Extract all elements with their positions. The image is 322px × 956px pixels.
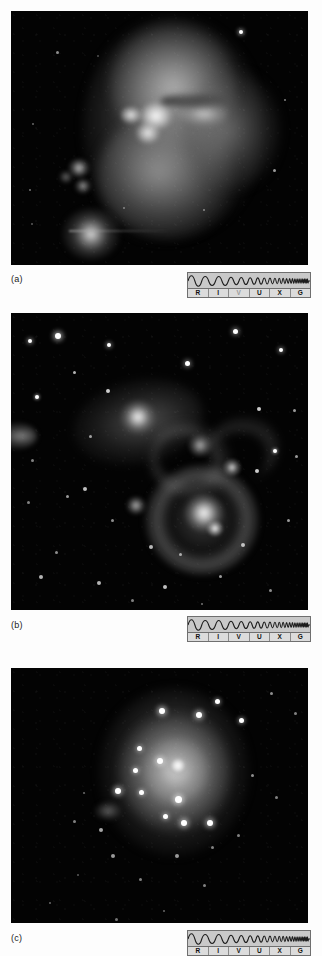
panel-c-spectrum-band: R I V U X G: [187, 930, 311, 956]
spectrum-label-r: R: [188, 289, 209, 297]
panel-b-caption: (b): [11, 620, 23, 630]
spectrum-waveform-icon: [188, 617, 310, 633]
spectrum-label-x: X: [270, 289, 291, 297]
spectrum-label-u: U: [250, 947, 271, 955]
panel-c-spectrum-labels: R I V U X G: [188, 946, 310, 955]
spectrum-label-r: R: [188, 633, 209, 641]
panel-b: (b) R I V U X G: [0, 300, 322, 645]
spectrum-label-v: V: [229, 289, 250, 297]
panel-a-image: [11, 11, 308, 265]
sky-background: [11, 668, 308, 923]
astronomy-figure-page: (a) R I V U X G: [0, 0, 322, 956]
spectrum-label-x: X: [270, 947, 291, 955]
spectrum-label-v: V: [229, 633, 250, 641]
spectrum-label-g: G: [291, 633, 311, 641]
spectrum-label-i: I: [209, 289, 230, 297]
panel-b-image: [11, 313, 308, 610]
spectrum-waveform-icon: [188, 273, 310, 289]
panel-c: (c) R I V U X G: [0, 645, 322, 956]
spectrum-label-r: R: [188, 947, 209, 955]
spectrum-waveform-icon: [188, 931, 310, 947]
spectrum-label-g: G: [291, 289, 311, 297]
spectrum-label-u: U: [250, 289, 271, 297]
panel-a-spectrum-labels: R I V U X G: [188, 288, 310, 297]
spectrum-label-v: V: [229, 947, 250, 955]
spectrum-label-u: U: [250, 633, 271, 641]
panel-a: (a) R I V U X G: [0, 0, 322, 300]
panel-c-caption: (c): [11, 933, 22, 943]
spectrum-label-i: I: [209, 947, 230, 955]
sky-background: [11, 313, 308, 610]
sky-background: [11, 11, 308, 265]
panel-b-spectrum-band: R I V U X G: [187, 616, 311, 642]
spectrum-label-g: G: [291, 947, 311, 955]
panel-a-spectrum-band: R I V U X G: [187, 272, 311, 298]
panel-b-spectrum-labels: R I V U X G: [188, 632, 310, 641]
panel-c-image: [11, 668, 308, 923]
panel-a-caption: (a): [11, 274, 23, 284]
spectrum-label-x: X: [270, 633, 291, 641]
spectrum-label-i: I: [209, 633, 230, 641]
